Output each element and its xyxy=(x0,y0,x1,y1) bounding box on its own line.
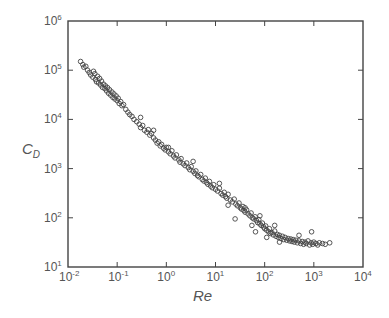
data-point xyxy=(226,203,231,208)
x-tick-label: 101 xyxy=(207,269,225,284)
x-tick-label: 10-2 xyxy=(59,269,80,284)
y-tick-label: 103 xyxy=(44,161,62,176)
y-tick-label: 104 xyxy=(44,111,62,126)
plot-frame xyxy=(68,21,363,267)
data-point xyxy=(323,242,328,247)
y-axis-label-sub: D xyxy=(33,149,40,160)
y-axis-ticks: 101102103104105106 xyxy=(44,13,363,274)
x-tick-label: 100 xyxy=(157,269,175,284)
data-point xyxy=(297,233,302,238)
x-axis-ticks: 10-210-1100101102103104 xyxy=(59,21,372,284)
data-point xyxy=(250,223,255,228)
x-tick-label: 104 xyxy=(354,269,372,284)
x-tick-label: 102 xyxy=(256,269,274,284)
data-point xyxy=(309,230,314,235)
data-point xyxy=(272,223,277,228)
drag-coefficient-chart: 10-210-1100101102103104 1011021031041051… xyxy=(0,0,389,318)
data-point xyxy=(249,211,254,216)
y-tick-label: 105 xyxy=(44,62,62,77)
data-point xyxy=(217,181,222,186)
data-point xyxy=(253,230,258,235)
data-points xyxy=(78,59,332,247)
data-point xyxy=(138,115,143,120)
y-axis-label: CD xyxy=(22,140,40,160)
data-point xyxy=(327,241,332,246)
data-point xyxy=(233,217,238,222)
y-axis-label-main: C xyxy=(22,140,33,157)
y-tick-label: 106 xyxy=(44,13,62,28)
y-tick-label: 102 xyxy=(44,210,62,225)
data-point xyxy=(191,159,196,164)
x-axis-label: Re xyxy=(193,287,212,304)
x-tick-label: 103 xyxy=(305,269,323,284)
x-tick-label: 10-1 xyxy=(108,269,129,284)
data-point xyxy=(264,235,269,240)
